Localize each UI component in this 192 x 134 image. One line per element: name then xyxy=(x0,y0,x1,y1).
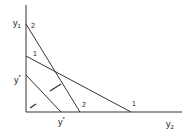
line-2-label-top: 2 xyxy=(31,22,35,29)
line-1 xyxy=(26,56,131,112)
line-1-label-top: 1 xyxy=(33,50,37,57)
line-2 xyxy=(26,24,80,112)
arrow-between-lines xyxy=(50,84,61,91)
y2-axis-label: y2 xyxy=(166,119,175,130)
x-star-axis-label: y* xyxy=(58,116,66,127)
line-1-label-bottom: 1 xyxy=(132,100,136,107)
y1-axis-label: y1 xyxy=(13,18,22,29)
y-star-axis-label: y* xyxy=(14,74,22,85)
arrow-near-origin xyxy=(30,104,36,108)
line-2-label-bottom: 2 xyxy=(82,101,86,108)
diagram: y1 y2 2 2 1 1 y* y* xyxy=(0,0,192,134)
